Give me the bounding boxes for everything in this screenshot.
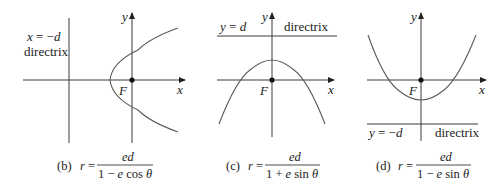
- y-axis-label: y: [120, 9, 128, 24]
- panel-c: y = d directrix F x y (c) r = ed 1 + e s…: [217, 9, 337, 181]
- caption-denominator: 1 − e cos θ: [98, 167, 152, 181]
- caption-equals: =: [88, 159, 95, 173]
- panel-d: y = −d directrix F x y (d) r = ed 1 − e …: [367, 9, 486, 181]
- caption-lhs: r: [80, 159, 85, 173]
- x-axis-label: x: [478, 82, 485, 97]
- conic-parabola-figure: x = −d directrix F x y (b) r = ed 1 − e …: [0, 0, 502, 187]
- x-axis-label: x: [176, 82, 183, 97]
- directrix-label: directrix: [435, 125, 480, 140]
- directrix-equation: y = −d: [367, 125, 403, 140]
- parabola-curve: [368, 35, 476, 100]
- directrix-label: directrix: [24, 44, 69, 59]
- directrix-label: directrix: [284, 19, 329, 34]
- focus-point: [418, 77, 423, 82]
- caption-lhs: r: [398, 159, 403, 173]
- y-axis-label: y: [260, 9, 268, 24]
- x-axis-label: x: [327, 82, 334, 97]
- caption-lhs: r: [248, 159, 253, 173]
- caption-tag: (b): [57, 159, 72, 173]
- focus-label: F: [118, 83, 128, 98]
- directrix-equation: y = d: [218, 19, 247, 34]
- caption-equals: =: [256, 159, 263, 173]
- y-axis-label: y: [409, 9, 417, 24]
- focus-label: F: [259, 83, 269, 98]
- caption-numerator: ed: [289, 150, 302, 164]
- caption-numerator: ed: [122, 150, 135, 164]
- directrix-equation: x = −d: [26, 29, 61, 44]
- focus-label: F: [408, 83, 418, 98]
- caption-numerator: ed: [440, 150, 453, 164]
- caption-tag: (d): [376, 159, 391, 173]
- caption-equals: =: [406, 159, 413, 173]
- caption-denominator: 1 − e sin θ: [417, 167, 469, 181]
- panel-b: x = −d directrix F x y (b) r = ed 1 − e …: [23, 9, 185, 181]
- caption-denominator: 1 + e sin θ: [266, 167, 318, 181]
- focus-point: [269, 77, 274, 82]
- caption-tag: (c): [226, 159, 240, 173]
- focus-point: [129, 77, 134, 82]
